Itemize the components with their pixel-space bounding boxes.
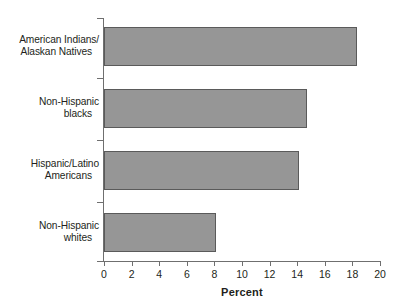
x-axis-tick (242, 261, 243, 266)
x-axis-tick-label: 10 (230, 268, 254, 280)
y-axis-tick (97, 18, 104, 19)
category-label-line2: Americans (0, 170, 92, 182)
x-axis-tick (325, 261, 326, 266)
x-axis-tick (380, 261, 381, 266)
y-axis-tick (97, 140, 104, 141)
category-label-line1: Hispanic/Latino (7, 158, 99, 170)
y-axis-tick (97, 261, 104, 262)
x-axis-tick (187, 261, 188, 266)
x-axis-tick-label: 4 (147, 268, 171, 280)
category-label-non-hispanic-blacks: Non-Hispanic blacks (0, 96, 99, 108)
category-label-line2: whites (0, 232, 92, 244)
x-axis-title: Percent (104, 286, 380, 298)
bar-non-hispanic-whites (104, 213, 216, 252)
category-label-hispanic-latino-americans: Hispanic/Latino Americans (0, 158, 99, 170)
category-label-line2: Alaskan Natives (0, 46, 92, 58)
bar-non-hispanic-blacks (104, 89, 307, 128)
x-axis-tick-label: 20 (368, 268, 392, 280)
x-axis-tick (214, 261, 215, 266)
y-axis-tick (97, 78, 104, 79)
x-axis-tick-label: 16 (313, 268, 337, 280)
x-axis-tick (270, 261, 271, 266)
bar-hispanic-latino-americans (104, 151, 299, 190)
bar-chart: American Indians/ Alaskan Natives Non-Hi… (0, 0, 402, 308)
category-label-line1: American Indians/ (7, 34, 99, 46)
x-axis-tick (104, 261, 105, 266)
x-axis-tick-label: 0 (92, 268, 116, 280)
x-axis-tick-label: 2 (120, 268, 144, 280)
x-axis-tick-label: 6 (175, 268, 199, 280)
category-label-american-indians-alaskan-natives: American Indians/ Alaskan Natives (0, 34, 99, 46)
x-axis-tick (132, 261, 133, 266)
category-label-line2: blacks (0, 108, 92, 120)
category-label-line1: Non-Hispanic (7, 96, 99, 108)
x-axis-tick (159, 261, 160, 266)
x-axis-tick (297, 261, 298, 266)
category-label-line1: Non-Hispanic (7, 220, 99, 232)
x-axis-tick-label: 14 (285, 268, 309, 280)
x-axis-tick-label: 12 (258, 268, 282, 280)
x-axis-tick (352, 261, 353, 266)
bar-american-indians-alaskan-natives (104, 27, 357, 66)
x-axis-tick-label: 8 (202, 268, 226, 280)
category-label-non-hispanic-whites: Non-Hispanic whites (0, 220, 99, 232)
x-axis-tick-label: 18 (340, 268, 364, 280)
y-axis-tick (97, 202, 104, 203)
